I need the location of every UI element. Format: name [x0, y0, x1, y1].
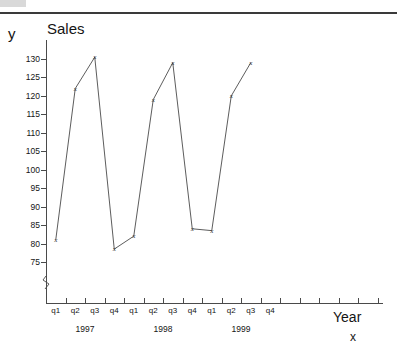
data-point-marker: x [54, 236, 57, 244]
data-point-marker: x [249, 59, 252, 67]
sales-line [56, 57, 251, 249]
data-point-marker: x [152, 96, 155, 104]
data-series-plot [0, 14, 397, 348]
x-axis-variable-label: x [350, 330, 356, 344]
data-point-marker: x [113, 245, 116, 253]
data-point-marker: x [74, 85, 77, 93]
top-left-artifact [0, 0, 26, 7]
data-point-marker: x [230, 92, 233, 100]
data-point-marker: x [191, 225, 194, 233]
sales-line-chart: y Sales 1301251201151101051009590858075 … [0, 14, 397, 348]
x-axis-title: Year [333, 309, 361, 325]
data-point-marker: x [171, 59, 174, 67]
data-point-marker: x [93, 53, 96, 61]
data-point-marker: x [210, 227, 213, 235]
data-point-marker: x [132, 232, 135, 240]
